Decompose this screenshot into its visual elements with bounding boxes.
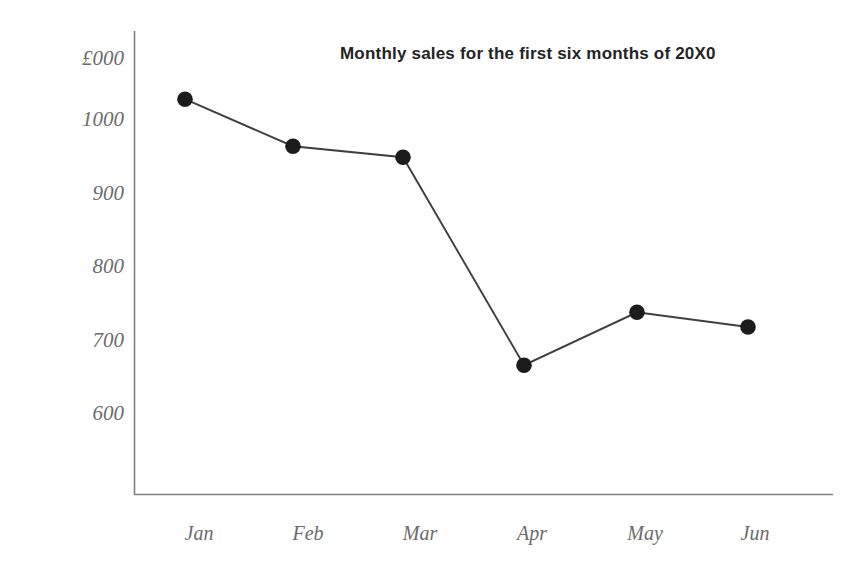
data-point-jan	[177, 91, 193, 107]
chart-figure: Monthly sales for the first six months o…	[0, 0, 864, 578]
data-point-jun	[740, 319, 756, 335]
data-series-line	[185, 99, 748, 365]
plot-area	[0, 0, 864, 578]
data-point-feb	[285, 138, 301, 154]
data-point-mar	[395, 149, 411, 165]
data-point-may	[629, 305, 645, 321]
data-point-apr	[516, 357, 532, 373]
